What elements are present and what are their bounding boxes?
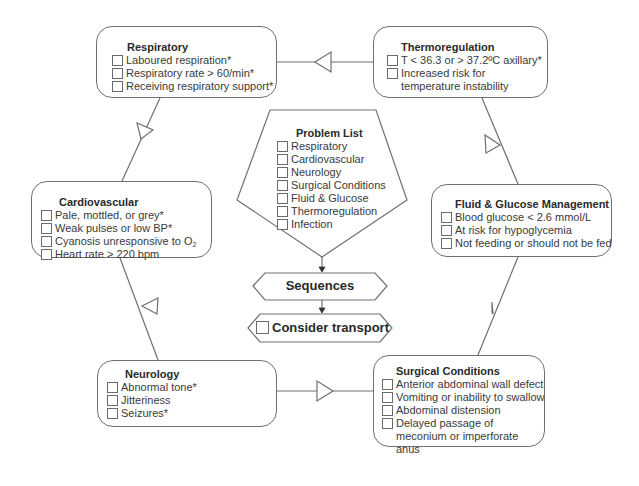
neurology-item[interactable]: Abnormal tone* xyxy=(107,381,276,394)
thermoregulation-title: Thermoregulation xyxy=(387,41,547,54)
cardiovascular-box: Cardiovascular Pale, mottled, or grey* W… xyxy=(31,181,212,258)
problem-list: Respiratory Cardiovascular Neurology Sur… xyxy=(277,140,386,231)
fluid-glucose-item[interactable]: At risk for hypoglycemia xyxy=(441,224,611,237)
checkbox[interactable] xyxy=(41,210,52,221)
checkbox[interactable] xyxy=(41,223,52,234)
consider-transport[interactable]: Consider transport xyxy=(256,320,389,335)
respiratory-item[interactable]: Respiratory rate > 60/min* xyxy=(112,67,276,80)
checkbox[interactable] xyxy=(387,55,398,66)
problem-list-item[interactable]: Cardiovascular xyxy=(277,153,386,166)
checkbox[interactable] xyxy=(277,154,288,165)
checkbox[interactable] xyxy=(112,55,123,66)
checkbox[interactable] xyxy=(441,212,452,223)
checkbox[interactable] xyxy=(277,180,288,191)
checkbox[interactable] xyxy=(387,68,398,79)
checkbox[interactable] xyxy=(112,68,123,79)
fluid-glucose-item[interactable]: Blood glucose < 2.6 mmol/L xyxy=(441,211,611,224)
checkbox[interactable] xyxy=(382,392,393,403)
checkbox[interactable] xyxy=(107,395,118,406)
surgical-item[interactable]: Abdominal distension xyxy=(382,404,544,417)
neurology-item[interactable]: Seizures* xyxy=(107,407,276,420)
fluid-glucose-box: Fluid & Glucose Management Blood glucose… xyxy=(431,184,612,257)
arrow-up-icon xyxy=(485,135,500,153)
neurology-box: Neurology Abnormal tone* Jitteriness Sei… xyxy=(97,360,277,427)
arrow-down-icon xyxy=(137,123,153,139)
checkbox[interactable] xyxy=(41,236,52,247)
checkbox[interactable] xyxy=(107,408,118,419)
cardiovascular-item[interactable]: Weak pulses or low BP* xyxy=(41,222,211,235)
fluid-glucose-item[interactable]: Not feeding or should not be fed xyxy=(441,237,611,250)
respiratory-box: Respiratory Laboured respiration* Respir… xyxy=(96,26,277,98)
checkbox[interactable] xyxy=(441,238,452,249)
surgical-item[interactable]: Anterior abdominal wall defect xyxy=(382,378,544,391)
checkbox[interactable] xyxy=(107,382,118,393)
checkbox[interactable] xyxy=(112,81,123,92)
respiratory-item[interactable]: Receiving respiratory support* xyxy=(112,80,276,93)
surgical-box: Surgical Conditions Anterior abdominal w… xyxy=(373,355,545,447)
thermoregulation-box: Thermoregulation T < 36.3 or > 37.2ºC ax… xyxy=(373,26,548,98)
sequences-label: Sequences xyxy=(253,278,387,293)
surgical-title: Surgical Conditions xyxy=(382,365,544,378)
arrow-down-icon xyxy=(319,267,325,272)
checkbox[interactable] xyxy=(277,219,288,230)
problem-list-item[interactable]: Fluid & Glucose xyxy=(277,192,386,205)
arrow-down-icon xyxy=(142,298,158,314)
checkbox[interactable] xyxy=(41,249,52,260)
problem-list-item[interactable]: Infection xyxy=(277,218,386,231)
checkbox[interactable] xyxy=(382,379,393,390)
problem-list-item[interactable]: Neurology xyxy=(277,166,386,179)
thermoregulation-item[interactable]: Increased risk for temperature instabili… xyxy=(387,67,547,93)
consider-transport-label: Consider transport xyxy=(272,320,389,335)
arrow-left-icon xyxy=(315,52,331,72)
arrow-up-icon xyxy=(492,302,493,314)
checkbox[interactable] xyxy=(441,225,452,236)
surgical-item[interactable]: Vomiting or inability to swallow xyxy=(382,391,544,404)
problem-list-title: Problem List xyxy=(296,127,363,139)
checkbox[interactable] xyxy=(277,141,288,152)
arrow-down-icon xyxy=(319,308,325,313)
checkbox[interactable] xyxy=(382,405,393,416)
connector-surgical-fluid xyxy=(478,257,518,355)
neurology-title: Neurology xyxy=(107,368,276,381)
checkbox[interactable] xyxy=(277,193,288,204)
checkbox[interactable] xyxy=(382,418,393,429)
respiratory-title: Respiratory xyxy=(112,41,276,54)
problem-list-item[interactable]: Surgical Conditions xyxy=(277,179,386,192)
problem-list-item[interactable]: Thermoregulation xyxy=(277,205,386,218)
checkbox[interactable] xyxy=(277,206,288,217)
neurology-item[interactable]: Jitteriness xyxy=(107,394,276,407)
cardiovascular-item[interactable]: Pale, mottled, or grey* xyxy=(41,209,211,222)
respiratory-item[interactable]: Laboured respiration* xyxy=(112,54,276,67)
surgical-item[interactable]: Delayed passage of meconium or imperfora… xyxy=(382,417,544,456)
arrow-right-icon xyxy=(317,381,333,401)
problem-list-item[interactable]: Respiratory xyxy=(277,140,386,153)
fluid-glucose-title: Fluid & Glucose Management xyxy=(441,198,611,211)
cardiovascular-item[interactable]: Heart rate > 220 bpm xyxy=(41,248,211,261)
cardiovascular-item[interactable]: Cyanosis unresponsive to O2 xyxy=(41,235,211,248)
consider-transport-checkbox[interactable] xyxy=(256,321,269,334)
thermoregulation-item[interactable]: T < 36.3 or > 37.2ºC axillary* xyxy=(387,54,547,67)
cardiovascular-title: Cardiovascular xyxy=(41,196,211,209)
checkbox[interactable] xyxy=(277,167,288,178)
